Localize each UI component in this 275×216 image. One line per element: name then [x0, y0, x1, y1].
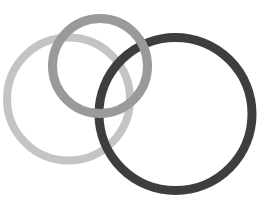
dark-ring	[99, 38, 252, 191]
overlapping-rings-graphic	[0, 0, 275, 216]
rings-illustration	[0, 0, 275, 216]
